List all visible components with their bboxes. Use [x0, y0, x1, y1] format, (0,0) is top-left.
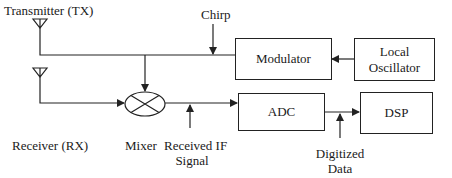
local-oscillator-label-line1: Local — [380, 44, 410, 60]
tx-antenna-icon — [33, 19, 47, 28]
local-oscillator-block: Local Oscillator — [354, 38, 435, 81]
receiver-label: Receiver (RX) — [12, 138, 88, 153]
chirp-label: Chirp — [201, 7, 231, 22]
received-if-label-line2: Signal — [164, 153, 220, 168]
modulator-block: Modulator — [235, 38, 332, 80]
transmitter-label: Transmitter (TX) — [4, 3, 93, 18]
digitized-data-label: Digitized Data — [314, 146, 366, 176]
modulator-label: Modulator — [256, 51, 311, 67]
digitized-data-label-line2: Data — [314, 161, 366, 176]
adc-block: ADC — [238, 93, 325, 131]
received-if-label-line1: Received IF — [164, 138, 220, 153]
adc-label: ADC — [268, 104, 295, 120]
mixer-label: Mixer — [125, 138, 157, 153]
tx-line — [40, 28, 235, 55]
rx-antenna-icon — [33, 68, 47, 77]
dsp-label: DSP — [385, 105, 409, 121]
mixer-icon — [125, 92, 165, 116]
rx-to-mixer-arrow — [40, 77, 124, 103]
received-if-label: Received IF Signal — [164, 138, 220, 168]
local-oscillator-label-line2: Oscillator — [369, 60, 420, 76]
digitized-data-label-line1: Digitized — [314, 146, 366, 161]
dsp-block: DSP — [360, 92, 433, 134]
radar-block-diagram: Transmitter (TX) Chirp Modulator Local O… — [0, 0, 452, 178]
